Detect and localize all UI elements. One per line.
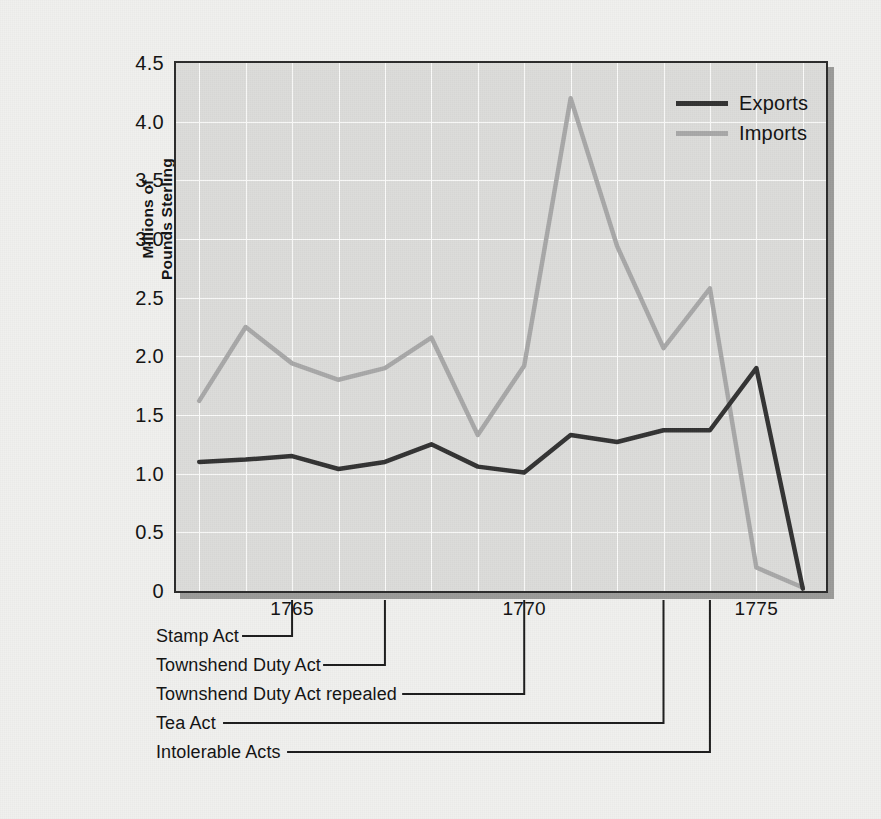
annotation-leader-line <box>402 600 524 694</box>
annotation-leader-line <box>287 600 710 752</box>
annotation-label: Tea Act <box>156 713 216 734</box>
annotation-leader-line <box>242 600 292 636</box>
annotation-label: Townshend Duty Act repealed <box>156 684 397 705</box>
annotation-label: Stamp Act <box>156 626 239 647</box>
annotation-leader-lines <box>0 0 881 819</box>
annotation-label: Townshend Duty Act <box>156 655 321 676</box>
chart-figure: Millions of Pounds Sterling 00.51.01.52.… <box>0 0 881 819</box>
annotation-layer: Stamp ActTownshend Duty ActTownshend Dut… <box>0 0 881 819</box>
annotation-leader-line <box>323 600 385 665</box>
annotation-label: Intolerable Acts <box>156 742 281 763</box>
